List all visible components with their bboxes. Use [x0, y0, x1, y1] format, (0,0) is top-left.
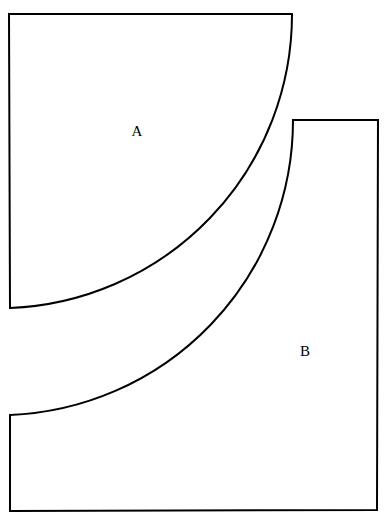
region-a-shape: [9, 14, 292, 308]
region-b-label: B: [300, 344, 310, 359]
figure-drawing: [0, 0, 387, 526]
region-a-label: A: [132, 124, 143, 139]
geometry-figure-canvas: A B: [0, 0, 387, 526]
